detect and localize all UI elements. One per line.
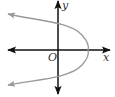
coordinate-graph: y O x: [0, 0, 115, 97]
x-axis-label: x: [103, 51, 110, 64]
origin-label: O: [48, 51, 57, 64]
y-axis-label: y: [61, 0, 69, 12]
